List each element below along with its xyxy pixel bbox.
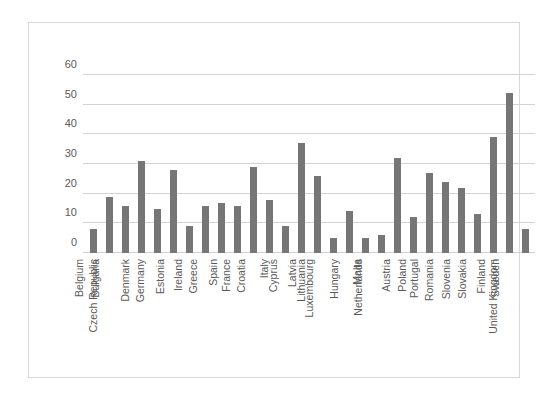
x-tick-label: Netherlands <box>353 259 364 316</box>
x-tick-label: Spain <box>208 259 219 286</box>
bar[interactable] <box>490 137 497 253</box>
bar[interactable] <box>346 211 353 253</box>
bar[interactable] <box>474 214 481 253</box>
bar-slot <box>485 75 501 253</box>
x-tick-label: Slovakia <box>457 259 468 299</box>
bar[interactable] <box>122 206 129 253</box>
bar[interactable] <box>266 200 273 253</box>
bar[interactable] <box>250 167 257 253</box>
bar-series <box>83 75 535 253</box>
x-tick-label: Croatia <box>236 259 247 293</box>
bar-slot <box>325 75 341 253</box>
bar[interactable] <box>234 206 241 253</box>
x-tick-label: Finland <box>476 259 487 293</box>
x-tick-label: Portugal <box>409 259 420 298</box>
bar-slot <box>389 75 405 253</box>
x-tick-label: Germany <box>135 259 146 302</box>
x-tick-label: United Kingdom <box>488 259 499 334</box>
bar-slot <box>101 75 117 253</box>
x-axis-labels: BelgiumBulgariaCzech RepublicDenmarkGerm… <box>83 257 535 387</box>
y-tick-label: 60 <box>65 59 77 70</box>
y-tick-label: 20 <box>65 177 77 188</box>
bar-slot <box>181 75 197 253</box>
bar[interactable] <box>314 176 321 253</box>
bar[interactable] <box>106 197 113 253</box>
x-label-slot: Bulgaria <box>101 257 117 387</box>
bar-slot <box>357 75 373 253</box>
y-tick-label: 50 <box>65 88 77 99</box>
bar[interactable] <box>202 206 209 253</box>
bar-slot <box>213 75 229 253</box>
x-tick-label: Slovenia <box>441 259 452 299</box>
x-tick-label: Ireland <box>173 259 184 291</box>
y-tick-label: 0 <box>71 237 77 248</box>
bar-slot <box>453 75 469 253</box>
bar-slot <box>405 75 421 253</box>
bar-slot <box>309 75 325 253</box>
bar-slot <box>373 75 389 253</box>
bar-slot <box>245 75 261 253</box>
bar[interactable] <box>138 161 145 253</box>
y-tick-label: 10 <box>65 207 77 218</box>
bar[interactable] <box>186 226 193 253</box>
x-tick-label: Romania <box>424 259 435 301</box>
bar-slot <box>197 75 213 253</box>
bar-slot <box>229 75 245 253</box>
bar[interactable] <box>458 188 465 253</box>
bar[interactable] <box>90 229 97 253</box>
bar-slot <box>437 75 453 253</box>
x-tick-label: Greece <box>188 259 199 293</box>
bar-slot <box>85 75 101 253</box>
bar[interactable] <box>426 173 433 253</box>
chart-figure: 0102030405060 BelgiumBulgariaCzech Repub… <box>0 0 558 401</box>
bar[interactable] <box>362 238 369 253</box>
x-tick-label: Belgium <box>74 259 85 297</box>
bar[interactable] <box>330 238 337 253</box>
x-tick-label: Poland <box>397 259 408 292</box>
chart-frame: 0102030405060 BelgiumBulgariaCzech Repub… <box>28 22 520 378</box>
bar[interactable] <box>410 217 417 253</box>
bar-slot <box>341 75 357 253</box>
x-label-slot: United Kingdom <box>517 257 533 387</box>
x-label-slot: Sweden <box>501 257 517 387</box>
bar-slot <box>165 75 181 253</box>
bar-slot <box>421 75 437 253</box>
x-tick-label: Denmark <box>120 259 131 302</box>
bar[interactable] <box>170 170 177 253</box>
bar[interactable] <box>378 235 385 253</box>
plot-area: 0102030405060 <box>83 75 535 253</box>
y-tick-label: 40 <box>65 118 77 129</box>
bar[interactable] <box>298 143 305 253</box>
bar-slot <box>277 75 293 253</box>
x-tick-label: Estonia <box>155 259 166 294</box>
bar-slot <box>261 75 277 253</box>
bar[interactable] <box>154 209 161 254</box>
bar[interactable] <box>506 93 513 253</box>
bar-slot <box>149 75 165 253</box>
bar[interactable] <box>442 182 449 253</box>
bar-slot <box>469 75 485 253</box>
x-tick-label: Cyprus <box>268 259 279 292</box>
bar-slot <box>133 75 149 253</box>
x-tick-label: France <box>221 259 232 292</box>
bar-slot <box>517 75 533 253</box>
x-tick-label: Czech Republic <box>88 259 99 333</box>
bar-slot <box>117 75 133 253</box>
x-tick-label: Austria <box>381 259 392 292</box>
bar[interactable] <box>282 226 289 253</box>
bar-slot <box>501 75 517 253</box>
bar[interactable] <box>394 158 401 253</box>
y-tick-label: 30 <box>65 148 77 159</box>
bar[interactable] <box>218 203 225 253</box>
bar-slot <box>293 75 309 253</box>
bar[interactable] <box>522 229 529 253</box>
x-tick-label: Luxembourg <box>304 259 315 317</box>
x-tick-label: Hungary <box>329 259 340 299</box>
